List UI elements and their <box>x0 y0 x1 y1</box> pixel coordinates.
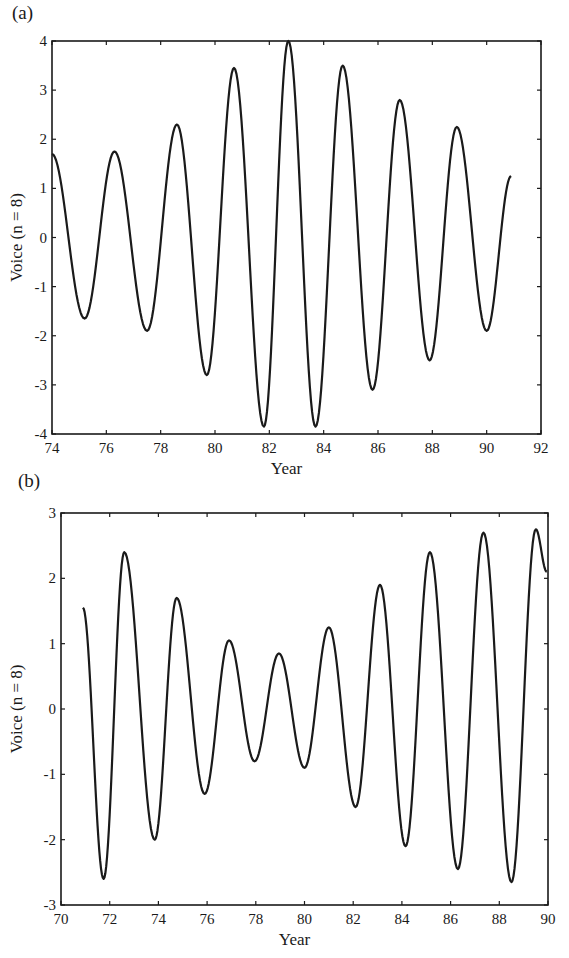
x-tick-label: 76 <box>200 911 216 927</box>
x-tick-label: 74 <box>45 440 61 456</box>
x-tick-label: 78 <box>153 440 168 456</box>
x-axis-title-b: Year <box>279 930 311 949</box>
y-tick-label: 2 <box>49 570 57 586</box>
x-tick-label: 80 <box>297 911 312 927</box>
voice-series-line-b <box>83 529 547 882</box>
x-tick-label: 84 <box>316 440 332 456</box>
x-tick-label: 84 <box>394 911 410 927</box>
y-tick-label: 3 <box>49 505 57 521</box>
x-tick-label: 74 <box>151 911 167 927</box>
x-tick-label: 80 <box>208 440 223 456</box>
y-axis-title-b: Voice (n = 8) <box>7 664 26 753</box>
x-tick-label: 90 <box>479 440 494 456</box>
y-tick-label: 1 <box>40 180 48 196</box>
x-tick-label: 86 <box>371 440 387 456</box>
plot-frame-b <box>61 513 548 905</box>
x-tick-label: 86 <box>443 911 459 927</box>
voice-series-line-a <box>52 41 511 427</box>
y-tick-label: 1 <box>49 636 57 652</box>
x-tick-label: 82 <box>346 911 361 927</box>
x-tick-label: 76 <box>99 440 115 456</box>
x-tick-label: 88 <box>425 440 440 456</box>
y-tick-label: -3 <box>44 897 57 913</box>
y-tick-label: -2 <box>35 328 48 344</box>
x-tick-label: 88 <box>492 911 507 927</box>
x-tick-label: 82 <box>262 440 277 456</box>
y-tick-label: -1 <box>44 766 57 782</box>
y-tick-label: 4 <box>40 33 48 49</box>
y-tick-label: 0 <box>49 701 57 717</box>
y-tick-label: -4 <box>35 426 48 442</box>
chart-canvas: 7476788082848688909243210-1-2-3-4YearVoi… <box>0 0 569 958</box>
y-axis-title-a: Voice (n = 8) <box>7 193 26 282</box>
y-tick-label: 0 <box>40 230 48 246</box>
x-axis-title-a: Year <box>271 459 303 478</box>
y-tick-label: -3 <box>35 377 48 393</box>
y-tick-label: 2 <box>40 131 48 147</box>
y-tick-label: -2 <box>44 832 57 848</box>
x-tick-label: 90 <box>541 911 556 927</box>
plot-frame-a <box>52 41 541 434</box>
y-tick-label: 3 <box>40 82 48 98</box>
x-tick-label: 70 <box>54 911 69 927</box>
x-tick-label: 78 <box>248 911 263 927</box>
x-tick-label: 72 <box>102 911 117 927</box>
x-tick-label: 92 <box>534 440 549 456</box>
y-tick-label: -1 <box>35 279 48 295</box>
